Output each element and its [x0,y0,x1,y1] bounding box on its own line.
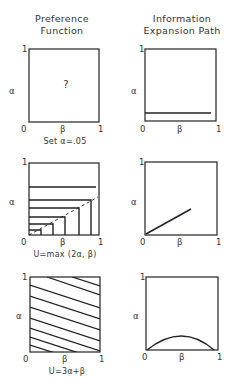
origin-left-3: 0 [23,354,28,364]
origin-right-3: 0 [142,352,147,362]
y-label-left-2: α [9,197,15,207]
indifference-curves-linear [30,277,100,353]
y-label-right-1: α [131,86,137,96]
tick-1-x-left-1: 1 [98,124,103,134]
tick-1-x-left-2: 1 [98,237,103,247]
x-label-right-3: β [179,352,184,362]
x-label-right-1: β [177,124,182,134]
tick-1-x-left-3: 1 [99,354,104,364]
expansion-box-3 [146,277,218,350]
expansion-path-3 [147,336,214,350]
origin-left-1: 0 [21,124,26,134]
x-label-left-2: β [60,237,65,247]
expansion-path-2 [146,209,191,234]
tick-1-x-right-2: 1 [216,237,221,247]
y-label-left-1: α [9,86,15,96]
diagram-graphics: ? [0,0,231,378]
origin-left-2: 0 [21,237,26,247]
caption-row-3: U=3α+β [22,367,112,376]
unknown-mark: ? [63,79,68,90]
indifference-curves-leontief [29,187,96,235]
x-label-left-1: β [60,124,65,134]
x-label-left-3: β [62,354,67,364]
origin-right-1: 0 [140,124,145,134]
expansion-box-2 [145,162,217,235]
caption-row-2: U=max (2α, β) [20,250,110,259]
tick-1-y-right-2: 1 [139,157,144,167]
tick-1-y-right-3: 1 [140,272,145,282]
tick-1-x-right-3: 1 [217,352,222,362]
y-label-right-3: α [133,311,139,321]
tick-1-x-right-1: 1 [216,124,221,134]
tick-1-y-right-1: 1 [139,44,144,54]
y-label-right-2: α [131,197,137,207]
origin-right-2: 0 [140,237,145,247]
tick-1-y-left-2: 1 [22,157,27,167]
tick-1-y-left-3: 1 [22,272,27,282]
x-label-right-2: β [177,237,182,247]
expansion-box-1 [145,49,216,121]
tick-1-y-left-1: 1 [22,44,27,54]
y-label-left-3: α [16,311,22,321]
caption-row-1: Set α=.05 [20,137,110,146]
